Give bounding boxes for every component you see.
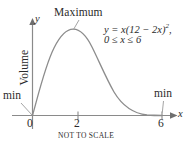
volume-curve	[33, 29, 163, 115]
domain-constraint-label: 0 ≤ x ≤ 6	[104, 35, 141, 46]
x-tick-label-0: 0	[27, 118, 33, 130]
x-tick-label-6: 6	[158, 118, 164, 130]
min-right-leader-line	[162, 101, 163, 113]
y-axis-label: y	[35, 14, 40, 25]
min-right-annotation-label: min	[154, 88, 172, 100]
x-axis-label: x	[178, 109, 183, 120]
not-to-scale-note: NOT TO SCALE	[58, 132, 114, 140]
volume-function-figure: Maximum y = x(12 − 2x)2, 0 ≤ x ≤ 6 Volum…	[0, 0, 189, 149]
x-tick-label-2: 2	[74, 118, 80, 130]
maximum-leader-line	[74, 20, 80, 30]
maximum-annotation-label: Maximum	[54, 7, 103, 19]
equation-body: y = x(12 − 2x)	[104, 24, 165, 35]
min-left-annotation-label: min	[3, 90, 21, 102]
min-left-leader-line	[21, 103, 32, 115]
equation-comma: ,	[169, 24, 172, 35]
